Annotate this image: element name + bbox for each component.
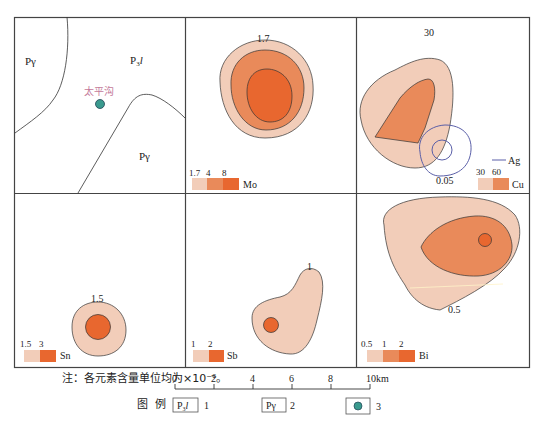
legend-title: 图 例 <box>137 397 166 411</box>
place-name: 太平沟 <box>84 85 114 97</box>
legend-mo-v1: 1.7 <box>189 168 201 178</box>
contour-label-bi: 0.5 <box>448 304 461 315</box>
legend-dot-icon <box>354 402 362 410</box>
legend-cu-v1: 30 <box>476 167 486 177</box>
legend-mo-v3: 8 <box>222 168 227 178</box>
boundary-nw <box>15 17 68 133</box>
legend-ag-element: Ag <box>508 155 520 166</box>
panel-sn: 1.5 1.5 3 Sn <box>20 293 126 362</box>
svg-text:6: 6 <box>289 373 294 384</box>
boundary-se <box>78 94 185 193</box>
svg-text:4: 4 <box>250 373 255 384</box>
contour-label-mo: 1.7 <box>257 33 270 44</box>
legend-sb-v2: 2 <box>208 339 213 349</box>
legend-bi-element: Bi <box>419 350 429 361</box>
panel-cu: 30 0.05 Ag 30 60 Cu <box>360 27 524 190</box>
contour-label-ag: 0.05 <box>436 175 454 186</box>
panel-bi: 0.5 0.5 1 2 Bi <box>361 197 520 362</box>
svg-text:1: 1 <box>204 400 209 411</box>
legend-cu-v2: 60 <box>492 167 502 177</box>
svg-text:3: 3 <box>376 401 381 412</box>
legend-mo-v2: 4 <box>206 168 211 178</box>
legend-bi-v1: 0.5 <box>361 339 373 349</box>
contour-label-cu: 30 <box>424 27 434 38</box>
legend-sb-element: Sb <box>227 350 238 361</box>
contour-label-sb: 1 <box>307 261 312 272</box>
legend-item-pgamma: Pγ <box>266 400 277 411</box>
panel-sb: 1 1 2 Sb <box>191 261 323 362</box>
legend-sn-element: Sn <box>60 350 71 361</box>
panel-mo: 1.7 1.7 4 8 Mo <box>189 33 313 190</box>
map-legend: 图 例 P3l 1 Pγ 2 3 <box>137 397 381 414</box>
legend-sb-v1: 1 <box>191 339 196 349</box>
legend-cu-element: Cu <box>512 179 524 190</box>
label-p3l: P3l <box>130 54 143 68</box>
legend-mo-element: Mo <box>243 179 257 190</box>
svg-text:2: 2 <box>290 400 295 411</box>
legend-sn-v2: 3 <box>39 339 44 349</box>
contour-label-sn: 1.5 <box>91 293 104 304</box>
panel-geology: Pγ P3l 太平沟 Pγ <box>15 17 185 193</box>
location-dot-icon <box>96 100 105 109</box>
legend-sn-v1: 1.5 <box>20 339 32 349</box>
svg-text:8: 8 <box>328 373 333 384</box>
legend-bi-v3: 2 <box>399 339 404 349</box>
svg-text:10km: 10km <box>366 373 389 384</box>
unit-note: 注：各元素含量单位均为×10⁻⁶。 <box>62 369 227 385</box>
legend-bi-v2: 1 <box>382 339 387 349</box>
label-pgamma-se: Pγ <box>139 150 150 162</box>
label-pgamma-nw: Pγ <box>25 55 36 67</box>
